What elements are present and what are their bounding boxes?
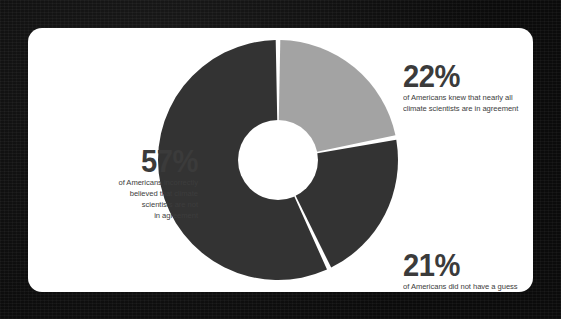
callout-incorrect-line-4: in agreement: [65, 210, 198, 221]
callout-knew: 22% of Americans knew that nearly all cl…: [403, 61, 524, 114]
callout-incorrect-line-1: of Americans incorrectly: [65, 177, 198, 188]
callout-no-guess-description: of Americans did not have a guess: [403, 281, 518, 292]
infographic-canvas: 22% of Americans knew that nearly all cl…: [0, 0, 561, 319]
callout-no-guess-value: 21%: [403, 250, 516, 281]
callout-knew-description: of Americans knew that nearly all climat…: [403, 92, 518, 114]
callout-incorrect: 57% of Americans incorrectly believed th…: [58, 146, 198, 221]
infographic-card: 22% of Americans knew that nearly all cl…: [28, 28, 533, 292]
callout-incorrect-value: 57%: [66, 146, 198, 177]
callout-knew-line-1: of Americans knew that nearly all: [403, 92, 518, 103]
donut-hole: [238, 120, 318, 200]
callout-incorrect-description: of Americans incorrectly believed that c…: [65, 177, 198, 221]
callout-incorrect-line-3: scientists are not: [65, 199, 198, 210]
callout-knew-line-2: climate scientists are in agreement: [403, 103, 518, 114]
callout-incorrect-line-2: believed that climate: [65, 188, 198, 199]
callout-no-guess: 21% of Americans did not have a guess: [403, 250, 524, 292]
callout-knew-value: 22%: [403, 61, 517, 92]
callout-no-guess-line-1: of Americans did not have a guess: [403, 281, 518, 292]
